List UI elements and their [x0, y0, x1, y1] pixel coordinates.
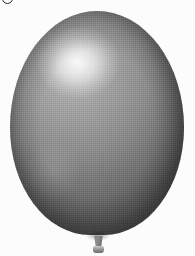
balloon-lip [93, 246, 104, 253]
balloon-body [10, 11, 184, 235]
balloon-figure [0, 0, 195, 256]
image-canvas [0, 0, 195, 256]
